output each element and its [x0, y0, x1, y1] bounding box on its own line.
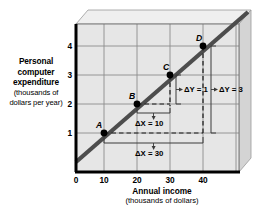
annotation-delta-y-3: ΔY = 3 — [219, 85, 243, 94]
data-point-b[interactable] — [134, 101, 141, 108]
plot-bevel-top — [76, 10, 251, 24]
point-label-d: D — [196, 33, 202, 43]
point-label-a: A — [96, 120, 102, 130]
y-tick-label-2: 2 — [58, 99, 72, 109]
x-tick-label-40: 40 — [195, 175, 211, 185]
x-tick-label-0: 0 — [68, 175, 84, 185]
x-tick-label-30: 30 — [162, 175, 178, 185]
x-tick-label-10: 10 — [96, 175, 112, 185]
data-point-c[interactable] — [167, 72, 174, 79]
y-tick-label-1: 1 — [58, 128, 72, 138]
data-point-a[interactable] — [101, 130, 108, 137]
point-label-c: C — [163, 62, 169, 72]
x-tick-label-20: 20 — [129, 175, 145, 185]
annotation-delta-x-10: ΔX = 10 — [135, 119, 163, 128]
y-tick-label-3: 3 — [58, 70, 72, 80]
y-tick-label-4: 4 — [58, 41, 72, 51]
point-label-b: B — [129, 91, 135, 101]
chart-figure: Personal computer expenditure (thousands… — [0, 0, 261, 208]
annotation-delta-y-1: ΔY = 1 — [184, 85, 208, 94]
annotation-delta-x-30: ΔX = 30 — [135, 149, 163, 158]
data-point-d[interactable] — [200, 43, 207, 50]
